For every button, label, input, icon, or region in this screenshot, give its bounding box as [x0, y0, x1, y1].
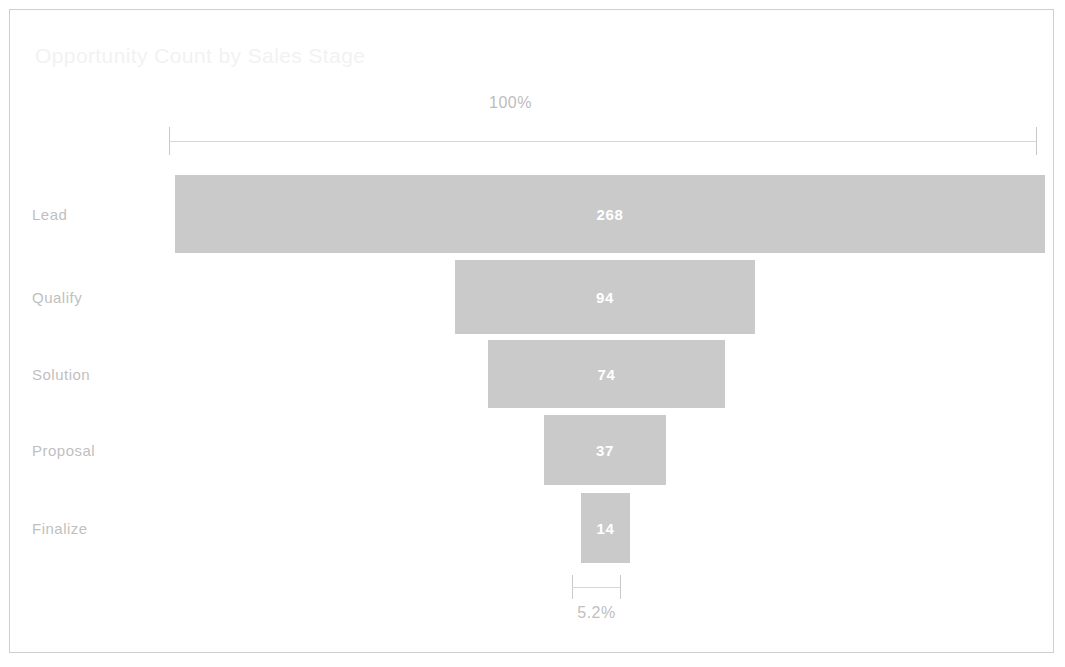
funnel-bar[interactable]: 14 — [581, 493, 630, 563]
funnel-bar-value: 268 — [597, 206, 624, 223]
funnel-bar[interactable]: 94 — [455, 260, 755, 334]
funnel-stage-label: Solution — [32, 366, 90, 383]
funnel-bar[interactable]: 268 — [175, 175, 1045, 253]
funnel-bar-value: 94 — [596, 289, 614, 306]
funnel-rows: Lead268Qualify94Solution74Proposal37Fina… — [10, 10, 1053, 652]
funnel-stage-label: Proposal — [32, 442, 95, 459]
funnel-row[interactable]: Solution74 — [10, 340, 1053, 408]
funnel-row[interactable]: Finalize14 — [10, 493, 1053, 563]
funnel-bar-value: 14 — [597, 520, 615, 537]
funnel-row[interactable]: Proposal37 — [10, 415, 1053, 485]
bottom-axis-percent-label: 5.2% — [572, 604, 621, 622]
funnel-bar[interactable]: 74 — [488, 340, 725, 408]
funnel-row[interactable]: Lead268 — [10, 175, 1053, 253]
funnel-bar-value: 37 — [596, 442, 614, 459]
funnel-bar-value: 74 — [598, 366, 616, 383]
funnel-chart-card: Opportunity Count by Sales Stage 100% Le… — [9, 9, 1054, 653]
funnel-stage-label: Lead — [32, 206, 67, 223]
funnel-row[interactable]: Qualify94 — [10, 260, 1053, 334]
funnel-stage-label: Qualify — [32, 289, 82, 306]
funnel-bar[interactable]: 37 — [544, 415, 666, 485]
funnel-stage-label: Finalize — [32, 520, 88, 537]
